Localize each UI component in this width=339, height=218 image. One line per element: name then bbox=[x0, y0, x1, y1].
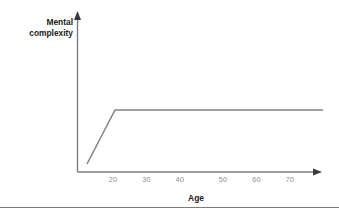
series-mental-complexity bbox=[87, 110, 323, 164]
xtick-label-70: 70 bbox=[286, 175, 294, 184]
xtick-label-60: 60 bbox=[252, 175, 260, 184]
x-axis-title: Age bbox=[188, 193, 204, 203]
xtick-label-20: 20 bbox=[109, 175, 117, 184]
y-axis-title-line2: complexity bbox=[29, 28, 73, 38]
chart-figure: 20 30 40 50 60 70 Age Mental complexity bbox=[0, 0, 339, 218]
x-axis-arrow-icon bbox=[313, 169, 322, 176]
bottom-divider bbox=[0, 207, 339, 208]
y-axis-arrow-icon bbox=[74, 11, 81, 20]
line-chart: 20 30 40 50 60 70 Age Mental complexity bbox=[0, 0, 339, 218]
y-axis-title-line1: Mental bbox=[46, 17, 73, 27]
xtick-label-40: 40 bbox=[176, 175, 184, 184]
xtick-label-50: 50 bbox=[219, 175, 227, 184]
xtick-label-30: 30 bbox=[142, 175, 150, 184]
